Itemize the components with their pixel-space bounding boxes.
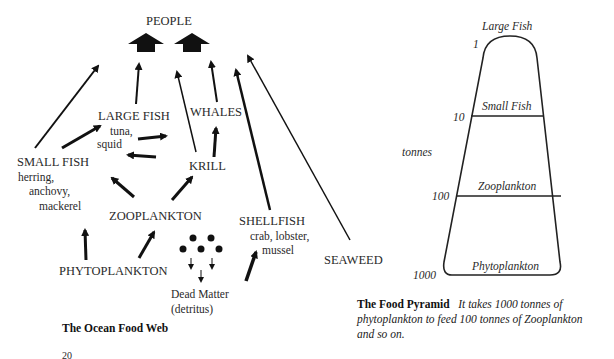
shellfish-example-1: crab, lobster, <box>250 229 309 243</box>
node-shellfish: SHELLFISH <box>239 214 305 228</box>
pyramid-level-phytoplankton: Phytoplankton <box>472 259 539 273</box>
node-people: PEOPLE <box>146 14 192 28</box>
pyramid-axis-label: tonnes <box>402 145 432 159</box>
pyramid-tonnes-1000: 1000 <box>413 268 436 282</box>
food-pyramid-caption-title: The Food Pyramid <box>357 298 450 310</box>
node-small-fish: SMALL FISH <box>17 155 89 169</box>
node-whales: WHALES <box>190 105 242 119</box>
small-fish-example-3: mackerel <box>39 199 81 213</box>
small-fish-example-1: herring, <box>18 170 54 184</box>
pyramid-tonnes-10: 10 <box>453 110 465 124</box>
node-seaweed: SEAWEED <box>324 253 383 267</box>
people-arrow-icons <box>128 33 210 52</box>
small-fish-example-2: anchovy, <box>29 184 70 198</box>
food-pyramid-shape <box>444 36 561 275</box>
food-pyramid-caption-line-3: and so on. <box>357 327 614 342</box>
food-pyramid-caption: The Food Pyramid It takes 1000 tonnes of… <box>357 297 614 342</box>
food-pyramid-caption-line-2: phytoplankton to feed 100 tonnes of Zoop… <box>357 312 614 327</box>
pyramid-tonnes-1: 1 <box>473 37 479 51</box>
pyramid-tonnes-100: 100 <box>432 189 449 203</box>
shellfish-example-2: mussel <box>262 243 294 257</box>
node-large-fish: LARGE FISH <box>98 109 170 123</box>
pyramid-level-large-fish: Large Fish <box>482 19 532 33</box>
large-fish-example-1: tuna, <box>110 124 133 138</box>
large-fish-example-2: squid <box>97 137 122 151</box>
node-krill: KRILL <box>189 159 226 173</box>
pyramid-level-small-fish: Small Fish <box>482 99 532 113</box>
node-dead-matter: Dead Matter <box>171 287 229 301</box>
page-number: 20 <box>62 349 72 359</box>
node-dead-matter-detritus: (detritus) <box>171 302 213 316</box>
pyramid-level-zooplankton: Zooplankton <box>478 179 536 193</box>
food-web-title: The Ocean Food Web <box>62 321 168 335</box>
node-phytoplankton: PHYTOPLANKTON <box>59 264 168 278</box>
food-pyramid-caption-line-1: It takes 1000 tonnes of <box>458 298 562 310</box>
dead-matter-particles-icon <box>180 235 223 253</box>
node-zooplankton: ZOOPLANKTON <box>109 209 202 223</box>
